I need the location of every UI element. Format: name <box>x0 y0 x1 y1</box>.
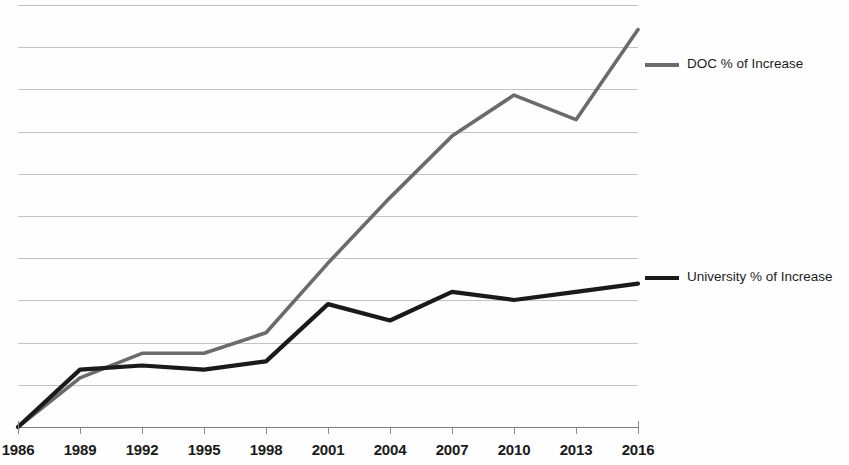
legend-label-doc: DOC % of Increase <box>687 56 803 71</box>
x-axis-tick <box>142 428 143 434</box>
x-axis-label: 1995 <box>174 441 234 458</box>
x-axis-label: 2013 <box>546 441 606 458</box>
legend-label-university: University % of Increase <box>687 269 833 284</box>
x-axis-label: 1998 <box>236 441 296 458</box>
x-axis-end-cap <box>18 421 19 428</box>
x-axis-label: 2010 <box>484 441 544 458</box>
x-axis-label: 1989 <box>50 441 110 458</box>
x-axis-tick <box>638 428 639 434</box>
x-axis-tick <box>452 428 453 434</box>
x-axis-tick <box>266 428 267 434</box>
x-axis-label: 2001 <box>298 441 358 458</box>
x-axis-tick <box>390 428 391 434</box>
x-axis-tick <box>514 428 515 434</box>
x-axis-end-cap <box>638 421 639 428</box>
x-axis-label: 2016 <box>608 441 668 458</box>
legend-swatch-university <box>645 276 679 280</box>
x-axis-label: 2007 <box>422 441 482 458</box>
x-axis-tick <box>204 428 205 434</box>
x-axis-label: 2004 <box>360 441 420 458</box>
x-axis-tick <box>576 428 577 434</box>
x-axis-tick <box>18 428 19 434</box>
line-chart: 1986198919921995199820012004200720102013… <box>0 0 849 465</box>
x-axis-tick <box>80 428 81 434</box>
legend-swatch-doc <box>645 63 679 67</box>
x-axis-label: 1992 <box>112 441 172 458</box>
x-axis-label: 1986 <box>0 441 48 458</box>
x-axis-tick <box>328 428 329 434</box>
series-line-university <box>18 284 638 427</box>
